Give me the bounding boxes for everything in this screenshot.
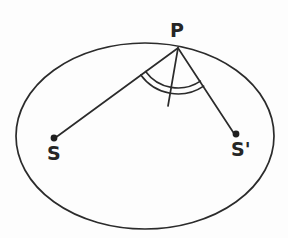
focal-radius-right-line [178, 48, 235, 135]
angle-arc-left-outer [141, 75, 170, 93]
focus-right-dot [233, 131, 240, 138]
focus-left-dot [51, 135, 58, 142]
focal-radius-left-line [55, 48, 178, 138]
focus-right-label: S' [231, 140, 251, 159]
focus-left-label: S [47, 144, 61, 163]
point-p-label: P [170, 21, 184, 40]
normal-line [168, 48, 178, 106]
diagram-canvas [0, 0, 288, 238]
angle-arc-right-inner [171, 81, 200, 88]
ellipse-diagram: P S S' [0, 0, 288, 238]
